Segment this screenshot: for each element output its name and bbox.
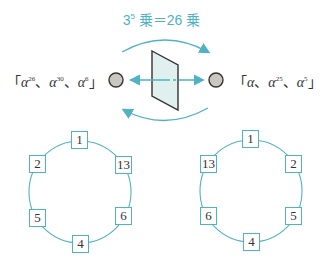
right-node-upper-right: 2 — [285, 155, 302, 173]
diagram-canvas — [0, 0, 323, 271]
right-node-lower-left: 6 — [200, 207, 217, 225]
right-dot — [209, 73, 223, 87]
left-node-lower-left: 5 — [29, 209, 46, 227]
left-node-bottom: 4 — [72, 235, 89, 253]
left-node-lower-right: 6 — [115, 207, 132, 225]
bottom-arc-arrow — [124, 108, 208, 121]
top-arc-arrow — [122, 40, 208, 52]
left-dot — [109, 73, 123, 87]
right-node-bottom: 4 — [243, 233, 260, 251]
left-node-upper-left: 2 — [29, 155, 46, 173]
right-node-top: 1 — [242, 130, 259, 148]
left-node-top: 1 — [71, 131, 88, 149]
left-node-upper-right: 13 — [115, 156, 132, 174]
operation-label: 35 乗＝26 乗 — [0, 9, 323, 29]
right-node-lower-right: 5 — [285, 207, 302, 225]
left-set: 「α26、α30、α6」 — [7, 71, 103, 91]
right-set: 「α、α25、α5」 — [233, 71, 322, 91]
right-node-upper-left: 13 — [200, 155, 217, 173]
